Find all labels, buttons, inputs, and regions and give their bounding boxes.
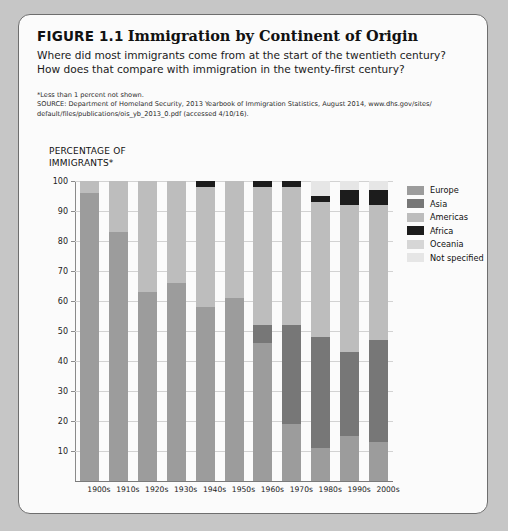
- figure-heading: FIGURE 1.1 Immigration by Continent of O…: [37, 27, 471, 44]
- bar-segment-africa: [253, 181, 272, 187]
- bar-segment-not-specified: [311, 181, 330, 196]
- legend-label: Asia: [430, 199, 447, 209]
- bar-segment-americas: [369, 205, 388, 340]
- bar-segment-europe: [369, 442, 388, 481]
- figure-subtitle: Where did most immigrants come from at t…: [37, 48, 469, 77]
- legend-swatch: [407, 213, 424, 222]
- bar-segment-americas: [253, 187, 272, 325]
- y-axis-tick-label: 40: [58, 357, 68, 366]
- bar-segment-americas: [109, 181, 128, 232]
- bar-segment-americas: [225, 181, 244, 298]
- y-axis-tick: [71, 181, 75, 182]
- legend-swatch: [407, 240, 424, 249]
- bar-segment-europe: [253, 343, 272, 481]
- bar-segment-americas: [80, 181, 99, 193]
- y-axis-tick-label: 100: [53, 177, 68, 186]
- chart-bar[interactable]: [369, 181, 388, 481]
- y-axis-title-line-2: IMMIGRANTS*: [49, 158, 126, 170]
- y-axis-tick-label: 10: [58, 447, 68, 456]
- y-axis-tick: [71, 241, 75, 242]
- bar-segment-americas: [311, 202, 330, 337]
- bar-segment-asia: [311, 337, 330, 448]
- figure-source-line-2: default/files/publications/ois_yb_2013_0…: [37, 110, 475, 119]
- legend-swatch: [407, 226, 424, 235]
- bar-segment-europe: [138, 292, 157, 481]
- legend-item[interactable]: Europe: [407, 184, 484, 196]
- bar-segment-americas: [138, 181, 157, 292]
- y-axis-tick: [71, 271, 75, 272]
- bar-segment-africa: [369, 190, 388, 205]
- y-axis-tick-label: 70: [58, 267, 68, 276]
- x-axis-label: 2000s: [368, 485, 408, 494]
- legend-item[interactable]: Africa: [407, 224, 484, 236]
- bar-segment-not-specified: [369, 181, 388, 190]
- bar-segment-europe: [196, 307, 215, 481]
- x-axis-line: [75, 481, 393, 482]
- bar-segment-asia: [369, 340, 388, 442]
- bar-segment-africa: [196, 181, 215, 187]
- y-axis-tick: [71, 301, 75, 302]
- y-axis-tick: [71, 331, 75, 332]
- bar-segment-africa: [311, 196, 330, 202]
- bar-segment-europe: [80, 193, 99, 481]
- y-axis-tick: [71, 391, 75, 392]
- legend-label: Europe: [430, 185, 459, 195]
- bar-segment-africa: [340, 190, 359, 205]
- bar-segment-americas: [196, 187, 215, 307]
- chart-bar[interactable]: [196, 181, 215, 481]
- legend-label: Oceania: [430, 239, 463, 249]
- bar-segment-americas: [282, 187, 301, 325]
- bar-segment-asia: [340, 352, 359, 436]
- bar-segment-not-specified: [340, 181, 359, 190]
- bar-segment-europe: [109, 232, 128, 481]
- legend-item[interactable]: Not specified: [407, 251, 484, 263]
- y-axis-title-line-1: PERCENTAGE OF: [49, 146, 126, 158]
- legend-item[interactable]: Oceania: [407, 238, 484, 250]
- y-axis-title: PERCENTAGE OF IMMIGRANTS*: [49, 146, 126, 169]
- bar-segment-europe: [340, 436, 359, 481]
- legend-label: Africa: [430, 226, 453, 236]
- y-axis-tick-label: 80: [58, 237, 68, 246]
- chart-bar[interactable]: [340, 181, 359, 481]
- chart-bar[interactable]: [167, 181, 186, 481]
- bar-segment-africa: [282, 181, 301, 187]
- chart-bar[interactable]: [282, 181, 301, 481]
- legend-item[interactable]: Asia: [407, 197, 484, 209]
- y-axis-tick-label: 60: [58, 297, 68, 306]
- y-axis-tick: [71, 211, 75, 212]
- bar-segment-americas: [340, 205, 359, 352]
- figure-number: FIGURE 1.1: [37, 28, 124, 44]
- bar-segment-asia: [282, 325, 301, 424]
- legend-item[interactable]: Americas: [407, 211, 484, 223]
- chart-legend: EuropeAsiaAmericasAfricaOceaniaNot speci…: [407, 184, 484, 265]
- y-axis-tick-label: 50: [58, 327, 68, 336]
- figure-page: FIGURE 1.1 Immigration by Continent of O…: [0, 0, 508, 531]
- bar-segment-asia: [253, 325, 272, 343]
- figure-source-line-1: SOURCE: Department of Homeland Security,…: [37, 100, 475, 109]
- y-axis-tick: [71, 361, 75, 362]
- figure-source-block: *Less than 1 percent not shown. SOURCE: …: [37, 91, 475, 119]
- bar-segment-europe: [282, 424, 301, 481]
- figure-footnote: *Less than 1 percent not shown.: [37, 91, 475, 100]
- chart-bar[interactable]: [253, 181, 272, 481]
- bar-segment-europe: [167, 283, 186, 481]
- bar-segment-europe: [225, 298, 244, 481]
- legend-label: Not specified: [430, 253, 484, 263]
- legend-swatch: [407, 253, 424, 262]
- y-axis-tick-label: 30: [58, 387, 68, 396]
- y-axis-tick: [71, 421, 75, 422]
- bar-segment-europe: [311, 448, 330, 481]
- chart-bar[interactable]: [109, 181, 128, 481]
- y-axis-tick-label: 90: [58, 207, 68, 216]
- y-axis-tick: [71, 451, 75, 452]
- y-axis-tick-label: 20: [58, 417, 68, 426]
- chart-plot-area: 1020304050607080901001900s1910s1920s1930…: [75, 181, 393, 481]
- chart-bar[interactable]: [311, 181, 330, 481]
- chart-bar[interactable]: [138, 181, 157, 481]
- chart-bar[interactable]: [80, 181, 99, 481]
- legend-swatch: [407, 199, 424, 208]
- legend-swatch: [407, 186, 424, 195]
- legend-label: Americas: [430, 212, 468, 222]
- figure-title: Immigration by Continent of Origin: [128, 27, 418, 44]
- chart-bar[interactable]: [225, 181, 244, 481]
